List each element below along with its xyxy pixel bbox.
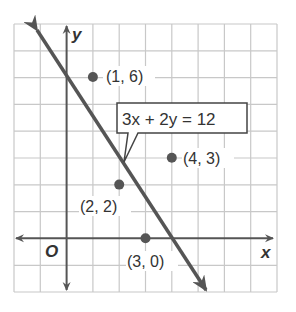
origin-label: O — [45, 242, 58, 261]
point-1-6 — [88, 72, 98, 82]
point-label-3-0: (3, 0) — [127, 253, 164, 270]
point-3-0 — [141, 233, 151, 243]
point-4-3 — [167, 153, 177, 163]
point-label-1-6: (1, 6) — [106, 68, 143, 85]
x-axis-label: x — [260, 243, 272, 262]
equation-label: 3x + 2y = 12 — [122, 110, 216, 129]
coordinate-graph: y x O 3x + 2y = 12 (1, 6) (4, 3) (2, 2) … — [0, 0, 296, 312]
point-2-2 — [114, 180, 124, 190]
point-label-2-2: (2, 2) — [80, 198, 117, 215]
y-axis-label: y — [71, 25, 83, 44]
point-label-4-3: (4, 3) — [183, 150, 220, 167]
